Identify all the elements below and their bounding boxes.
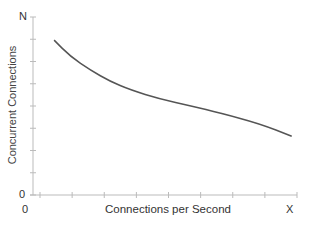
series-line — [54, 40, 292, 136]
x-max-label: X — [286, 204, 293, 215]
x-axis-title: Connections per Second — [105, 204, 231, 216]
y-axis-title: Concurrent Connections — [6, 46, 18, 165]
x-min-label: 0 — [22, 204, 28, 215]
y-axis — [30, 17, 36, 195]
chart-canvas — [0, 0, 312, 229]
y-max-label: N — [19, 11, 27, 22]
x-axis — [30, 192, 297, 198]
y-min-label: 0 — [19, 189, 25, 200]
